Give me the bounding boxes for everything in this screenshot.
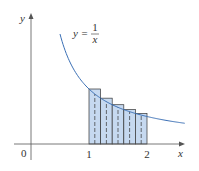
rectangle [124,110,136,144]
chart-plot: 0 1 2 x y y = 1 x [0,0,199,171]
y-axis-arrow-icon [29,13,34,19]
svg-text:1: 1 [92,21,98,33]
x-axis-arrow-icon [179,142,185,147]
svg-text:x: x [92,33,98,45]
origin-label: 0 [21,147,27,159]
y-axis-label: y [19,12,25,24]
svg-text:y =: y = [72,27,88,39]
x-axis-label: x [177,147,183,159]
function-label: y = 1 x [72,21,99,45]
x-tick-2: 2 [144,148,150,160]
x-tick-1: 1 [86,148,92,160]
